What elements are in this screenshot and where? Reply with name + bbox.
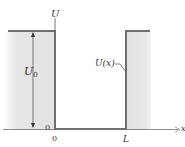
- x-zero-tick-label: 0: [52, 135, 57, 143]
- right-barrier-region: [126, 31, 151, 129]
- curve-label: U(x): [95, 59, 115, 68]
- u0-label: U0: [24, 66, 38, 79]
- curve-label-leader: [115, 64, 126, 72]
- left-barrier-region: [4, 31, 55, 129]
- u0-symbol: U: [24, 65, 33, 78]
- u0-subscript: 0: [33, 71, 37, 79]
- x-axis-label: x: [181, 125, 185, 133]
- u-axis-label: U: [51, 9, 59, 19]
- x-l-tick-label: L: [123, 135, 129, 144]
- potential-well-diagram: U x U0 U(x) 0 0 L: [0, 0, 185, 147]
- y-zero-tick-label: 0: [45, 124, 50, 132]
